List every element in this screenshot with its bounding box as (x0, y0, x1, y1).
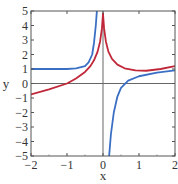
function-plot: −2−1012 −5−4−3−2−1012345 x y (0, 0, 178, 184)
x-tick-label: 2 (172, 158, 178, 172)
y-tick-label: 4 (22, 19, 28, 33)
x-axis-label: x (100, 168, 107, 183)
red-curve-branch-1 (103, 14, 175, 71)
y-tick-label: 0 (22, 77, 28, 91)
y-tick-label: 1 (22, 62, 28, 76)
y-tick-label: −4 (15, 135, 28, 149)
y-axis-label: y (3, 76, 10, 91)
y-tick-label: −5 (15, 149, 28, 163)
y-tick-label: −1 (15, 91, 28, 105)
x-tick-label: −1 (61, 158, 74, 172)
blue-curve-branch-0 (31, 11, 97, 69)
y-tick-label: 2 (22, 48, 28, 62)
y-tick-label: 3 (22, 33, 28, 47)
zero-axes (31, 11, 175, 156)
y-tick-label: −3 (15, 120, 28, 134)
y-tick-label: −2 (15, 106, 28, 120)
y-tick-label: 5 (22, 4, 28, 18)
x-tick-label: 1 (136, 158, 142, 172)
y-tick-labels: −5−4−3−2−1012345 (15, 4, 28, 163)
